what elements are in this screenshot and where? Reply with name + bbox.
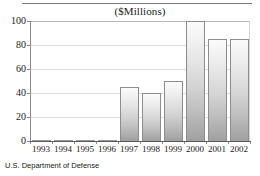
y-tick-label: 100 <box>0 16 26 26</box>
x-tick-label: 2000 <box>184 144 206 154</box>
y-tick-label: 80 <box>0 40 26 50</box>
x-tick-mark <box>250 142 251 144</box>
bar <box>230 39 249 141</box>
y-tick-mark <box>27 93 30 94</box>
x-tick-label: 1997 <box>118 144 140 154</box>
plot-right-border <box>249 21 250 141</box>
bar <box>186 21 205 141</box>
x-tick-label: 1994 <box>52 144 74 154</box>
x-tick-mark <box>30 142 31 144</box>
y-tick-label: 40 <box>0 88 26 98</box>
x-tick-mark <box>162 142 163 144</box>
chart-figure: ($Millions) 020406080100 199319941995199… <box>0 0 260 176</box>
x-tick-label: 2001 <box>206 144 228 154</box>
y-tick-label: 60 <box>0 64 26 74</box>
y-tick-label: 20 <box>0 112 26 122</box>
x-tick-mark <box>118 142 119 144</box>
x-tick-label: 1995 <box>74 144 96 154</box>
plot-top-border <box>30 21 250 22</box>
y-tick-mark <box>27 45 30 46</box>
source-note: U.S. Department of Defense <box>5 161 99 170</box>
x-tick-label: 1999 <box>162 144 184 154</box>
y-tick-label: 0 <box>0 136 26 146</box>
y-axis-line <box>30 21 31 142</box>
x-tick-mark <box>96 142 97 144</box>
x-tick-mark <box>74 142 75 144</box>
chart-title: ($Millions) <box>30 5 250 17</box>
x-tick-mark <box>140 142 141 144</box>
y-tick-mark <box>27 117 30 118</box>
x-tick-mark <box>184 142 185 144</box>
y-tick-mark <box>27 21 30 22</box>
y-tick-mark <box>27 69 30 70</box>
bar <box>208 39 227 141</box>
bar <box>120 87 139 141</box>
x-tick-label: 1993 <box>30 144 52 154</box>
x-tick-label: 2002 <box>228 144 250 154</box>
plot-area <box>30 21 250 141</box>
x-tick-label: 1998 <box>140 144 162 154</box>
bar <box>164 81 183 141</box>
x-tick-mark <box>206 142 207 144</box>
x-tick-label: 1996 <box>96 144 118 154</box>
x-tick-mark <box>228 142 229 144</box>
top-divider-rule <box>22 3 252 4</box>
x-tick-mark <box>52 142 53 144</box>
bar <box>142 93 161 141</box>
